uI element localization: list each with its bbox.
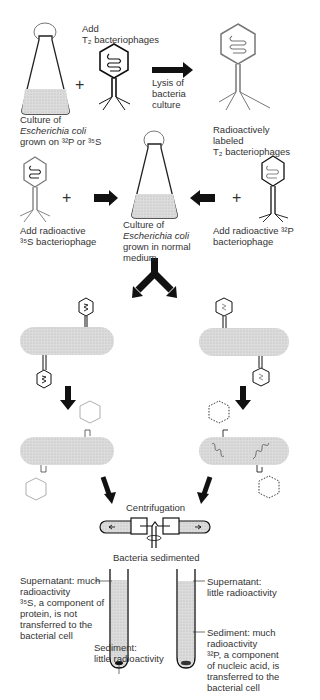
lysis-label: Lysis ofbacteriaculture xyxy=(152,77,186,110)
svg-text:+: + xyxy=(232,189,241,206)
bacterium-icon xyxy=(20,298,114,388)
arrow-left-icon xyxy=(190,190,215,206)
s35-phage-icon xyxy=(20,157,50,222)
arrow-diag-icon xyxy=(103,477,116,504)
culture-mid-label: Culture ofEscherichia coligrown in norma… xyxy=(123,219,191,263)
centrifugation-label: Centrifugation xyxy=(126,502,185,513)
bacterium-icon-3 xyxy=(20,401,114,500)
flask-icon xyxy=(22,23,69,114)
right-sediment-label: Sediment: muchradioactivity³²P, a compon… xyxy=(207,627,279,693)
culture-top-label: Culture ofEscherichia coligrown on ³²P o… xyxy=(20,114,101,147)
arrow-down-icon-2 xyxy=(235,386,251,410)
bacterium-icon-2 xyxy=(199,298,289,386)
left-supernatant-label: Supernatant: muchradioactivity³⁵S, a com… xyxy=(20,575,104,641)
labeled-phage-icon xyxy=(219,24,270,110)
right-supernatant-label: Supernatant:little radioactivity xyxy=(207,576,277,598)
add-s35-label: Add radioactive³⁵S bacteriophage xyxy=(20,225,96,247)
svg-text:+: + xyxy=(75,76,84,93)
sedimented-label: Bacteria sedimented xyxy=(113,552,200,563)
arrow-right-icon xyxy=(152,62,193,78)
bacterium-icon-4 xyxy=(199,401,289,498)
centrifuge-icon xyxy=(100,518,210,548)
add-t2-label: AddT₂ bacteriophages xyxy=(82,23,159,45)
arrow-down-icon xyxy=(60,386,76,410)
flask-icon-2 xyxy=(132,131,177,218)
test-tube-right-icon xyxy=(177,569,195,668)
split-arrow-icon xyxy=(132,258,177,298)
arrow-right-icon-2 xyxy=(94,190,118,206)
radio-labeled-label: RadioactivelylabeledT₂ bacteriophages xyxy=(213,124,290,157)
phage-icon xyxy=(99,44,130,110)
arrow-diag-icon-2 xyxy=(197,477,210,504)
svg-text:+: + xyxy=(62,189,71,206)
left-sediment-label: Sediment:little radioactivity xyxy=(94,642,164,664)
add-p32-label: Add radioactive ³²Pbacteriophage xyxy=(213,225,294,247)
p32-phage-icon xyxy=(259,156,288,222)
